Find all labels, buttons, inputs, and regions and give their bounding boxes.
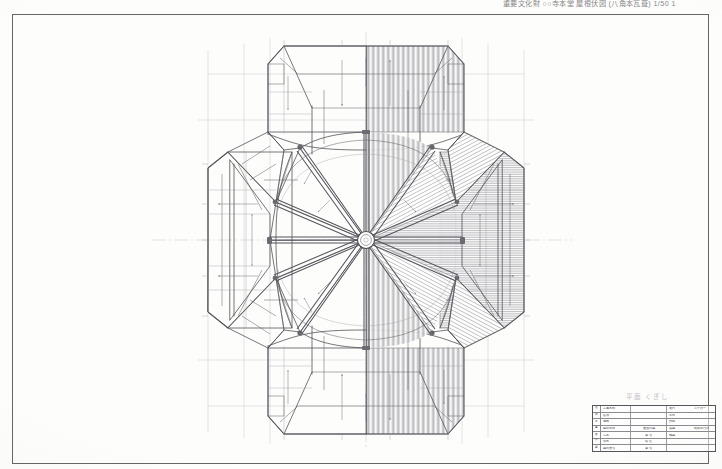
title-block-divider bbox=[630, 419, 631, 425]
central-roof-left-outline bbox=[270, 132, 366, 348]
title-block-cell-r2: 昭和年月日 bbox=[692, 427, 715, 430]
title-block-row: 称建 物主 任 bbox=[593, 413, 715, 420]
title-block-divider bbox=[666, 445, 667, 451]
title-block-divider bbox=[666, 439, 667, 445]
title-block-stub: 名 bbox=[593, 406, 601, 412]
title-block-stub: 番 bbox=[593, 432, 601, 438]
title-block-stub: 号 bbox=[593, 439, 601, 445]
sheet-handwritten-note: 平面 くぎし bbox=[626, 391, 680, 402]
title-block[interactable]: 名工事名称縮尺三十分一称建 物主 任工階 数技 師事図面名称屋根伏図製 図昭和年… bbox=[592, 405, 716, 452]
title-block-cell-mid: 屋根伏図 bbox=[631, 427, 666, 430]
title-block-divider bbox=[630, 406, 631, 412]
title-block-row: 号係 名修 理 bbox=[593, 439, 715, 446]
title-block-cell-label: 階 数 bbox=[601, 420, 630, 423]
title-block-cell-label: 工 区 bbox=[601, 434, 630, 437]
title-block-cell-label: 図面名称 bbox=[601, 427, 630, 430]
title-block-stub: 工 bbox=[593, 419, 601, 425]
title-block-row: 名工事名称縮尺三十分一 bbox=[593, 406, 715, 413]
title-block-cell-mid: 第 号 bbox=[631, 447, 666, 450]
title-block-stub: 称 bbox=[593, 413, 601, 419]
title-block-cell-r1: 製 図 bbox=[667, 427, 692, 430]
title-block-cell-mid: 第 号 bbox=[631, 434, 666, 437]
title-block-divider bbox=[630, 413, 631, 419]
title-block-cell-label: 工事名称 bbox=[601, 407, 630, 410]
sheet-header-caption: 重要文化財 ○○寺本堂 屋根伏図 (八角本瓦葺) 1/50 1 bbox=[503, 0, 718, 8]
title-block-cell-mid: 修 理 bbox=[631, 440, 666, 443]
title-block-stub: 図 bbox=[593, 445, 601, 451]
drawing-sheet: 重要文化財 ○○寺本堂 屋根伏図 (八角本瓦葺) 1/50 1 bbox=[0, 0, 722, 469]
title-block-cell-label: 建 物 bbox=[601, 414, 630, 417]
title-block-row: 工階 数技 師 bbox=[593, 419, 715, 426]
title-block-row: 番工 区第 号検 図 bbox=[593, 432, 715, 439]
title-block-row: 図図面番号第 号 bbox=[593, 445, 715, 451]
title-block-cell-r1: 技 師 bbox=[667, 420, 692, 423]
title-block-cell-r1: 検 図 bbox=[667, 434, 692, 437]
title-block-row: 事図面名称屋根伏図製 図昭和年月日 bbox=[593, 426, 715, 433]
roof-plan-drawing: .ln { fill:none; stroke:#4a4a50; stroke-… bbox=[12, 14, 709, 464]
title-block-cell-r1: 縮尺 bbox=[667, 407, 692, 410]
title-block-cell-r2: 三十分一 bbox=[692, 407, 715, 410]
title-block-stub: 事 bbox=[593, 426, 601, 432]
title-block-cell-label: 係 名 bbox=[601, 440, 630, 443]
title-block-cell-r1: 主 任 bbox=[667, 414, 692, 417]
central-finial bbox=[358, 232, 375, 249]
title-block-cell-label: 図面番号 bbox=[601, 447, 630, 450]
